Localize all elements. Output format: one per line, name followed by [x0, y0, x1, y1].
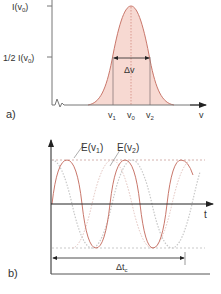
frequency-axis-label: v — [199, 110, 204, 120]
v2-label: v2 — [146, 110, 155, 121]
panel-b-field: E(v1) E(v2) t Δtc b) — [8, 140, 213, 279]
time-axis-label: t — [204, 209, 207, 220]
panel-a-label: a) — [6, 108, 16, 120]
diagram: I(v0) 1/2 I(v0) Δv v1 v0 v2 v a) E(v1) E… — [0, 0, 221, 294]
e1-label: E(v1) — [81, 142, 103, 154]
half-intensity-label: 1/2 I(v0) — [3, 53, 34, 64]
v0-label: v0 — [127, 110, 136, 121]
delta-nu-label: Δv — [124, 65, 135, 75]
panel-b-label: b) — [8, 267, 18, 279]
coherence-time-label: Δtc — [116, 262, 128, 273]
v1-label: v1 — [108, 110, 117, 121]
peak-intensity-label: I(v0) — [12, 2, 28, 13]
e2-label: E(v2) — [117, 142, 139, 154]
panel-a-spectrum: I(v0) 1/2 I(v0) Δv v1 v0 v2 v a) — [3, 0, 206, 121]
